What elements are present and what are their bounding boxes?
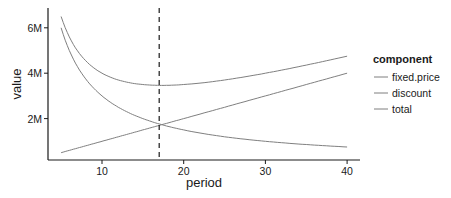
x-axis-label: period bbox=[186, 175, 222, 190]
x-tick-label: 10 bbox=[96, 165, 108, 177]
y-tick-label: 2M bbox=[27, 113, 42, 125]
y-axis-label: value bbox=[9, 68, 24, 99]
plot-area bbox=[61, 8, 347, 160]
series-line-total bbox=[61, 17, 347, 86]
y-tick-label: 4M bbox=[27, 67, 42, 79]
axes bbox=[48, 8, 360, 160]
series-line-fixed-price bbox=[61, 28, 347, 147]
legend-label: discount bbox=[392, 87, 431, 99]
series-line-discount bbox=[61, 73, 347, 153]
line-chart: 2M4M6M 10203040 period value component f… bbox=[0, 0, 451, 198]
legend: component fixed.pricediscounttotal bbox=[373, 53, 440, 115]
x-ticks: 10203040 bbox=[96, 160, 353, 177]
legend-title: component bbox=[373, 53, 433, 65]
legend-label: total bbox=[392, 103, 412, 115]
y-ticks: 2M4M6M bbox=[27, 22, 48, 125]
y-tick-label: 6M bbox=[27, 22, 42, 34]
legend-label: fixed.price bbox=[392, 71, 440, 83]
x-tick-label: 40 bbox=[341, 165, 353, 177]
x-tick-label: 30 bbox=[260, 165, 272, 177]
